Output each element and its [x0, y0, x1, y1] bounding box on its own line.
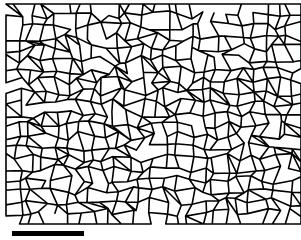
grain-boundaries [6, 4, 301, 224]
grain-boundary-network [0, 0, 301, 240]
scale-bar [12, 231, 84, 236]
